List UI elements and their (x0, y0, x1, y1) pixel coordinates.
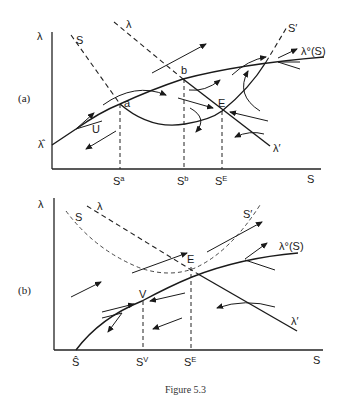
lambda-hat-label: λ̂ (38, 138, 46, 150)
tick-sv: SV (136, 355, 148, 368)
lambda-line-label: λ (97, 200, 103, 212)
svg-text:SE: SE (215, 174, 227, 187)
x-axis-label: S (313, 354, 320, 366)
tick-se: SE (184, 355, 196, 368)
lambda-o-label: λ°(S) (279, 240, 304, 252)
tick-sa: Sa (113, 174, 125, 187)
s-curve-label: S (76, 34, 83, 46)
point-e-label: E (187, 253, 194, 265)
s-prime-label: S′ (288, 22, 297, 34)
x-axis-label: S (307, 173, 314, 185)
trajectory-arrows (71, 222, 275, 332)
panel-label: (b) (18, 284, 31, 297)
lambda-line-dashed (87, 206, 198, 274)
lambda-line-label: λ (126, 18, 132, 30)
svg-text:SV: SV (136, 355, 148, 368)
tick-sb: Sb (177, 174, 189, 187)
point-e-label: E (218, 97, 225, 109)
svg-text:Sb: Sb (177, 174, 189, 187)
y-axis-label: λ (37, 30, 43, 42)
panel-b: λ (b) S S S′ λ λ′ λ°(S) V E Ŝ SV SE (18, 198, 323, 368)
y-axis-label: λ (38, 198, 44, 210)
tick-se: SE (215, 174, 227, 187)
svg-text:Sa: Sa (113, 174, 125, 187)
panel-label: (a) (18, 92, 31, 105)
figure-caption: Figure 5.3 (165, 384, 206, 395)
lambda-o-label: λ°(S) (301, 45, 326, 57)
trajectory-arrows (76, 44, 300, 149)
lambda-prime-label: λ′ (291, 315, 299, 327)
s-curve-label: S (75, 211, 82, 223)
tick-s-hat: Ŝ (72, 356, 79, 368)
lambda-o-curve (76, 253, 298, 350)
svg-text:SE: SE (184, 355, 196, 368)
figure-canvas: λ (a) λ̂ S λ°(S) S S′ λ λ′ a b E U Sa S (0, 0, 347, 403)
point-u-label: U (92, 123, 100, 135)
point-b-label: b (181, 64, 187, 76)
point-v-label: V (139, 288, 147, 300)
lambda-line-dashed (114, 22, 183, 79)
point-a-label: a (124, 97, 131, 109)
lambda-prime-label: λ′ (273, 142, 281, 154)
s-prime-label: S′ (243, 208, 252, 220)
s-prime-dashed (266, 27, 287, 62)
svg-text:Ŝ: Ŝ (72, 356, 79, 368)
panel-a: λ (a) λ̂ S λ°(S) S S′ λ λ′ a b E U Sa S (18, 18, 326, 187)
